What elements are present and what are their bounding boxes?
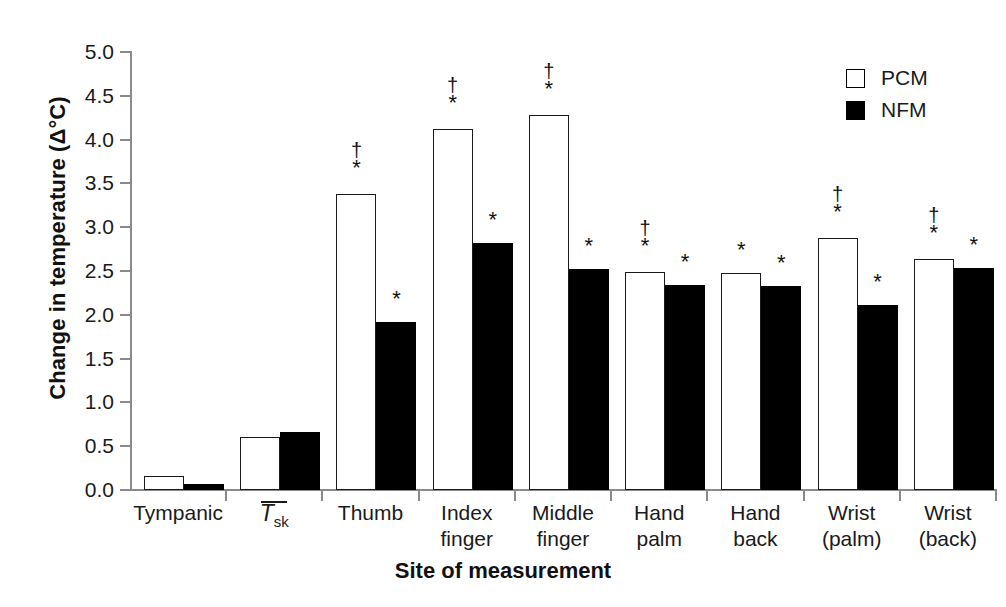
significance-markers: †*	[433, 77, 473, 123]
asterisk-marker: *	[433, 94, 473, 111]
asterisk-marker: *	[376, 290, 416, 307]
significance-markers: †*	[529, 63, 569, 109]
asterisk-marker: *	[761, 254, 801, 271]
asterisk-marker: *	[954, 236, 994, 253]
bar-pcm	[818, 238, 858, 490]
bar-pcm	[336, 194, 376, 490]
significance-markers: †*	[914, 207, 954, 253]
y-axis-tick-label: 0.0	[52, 479, 114, 500]
bar-nfm	[665, 285, 705, 490]
asterisk-marker: *	[721, 241, 761, 258]
x-axis-tick-label-line: Wrist	[873, 500, 1006, 526]
significance-markers: *	[721, 241, 761, 267]
asterisk-marker: *	[665, 253, 705, 270]
significance-markers: †*	[336, 142, 376, 188]
significance-markers: †*	[818, 186, 858, 232]
bar-pcm	[144, 476, 184, 490]
legend-item-nfm: NFM	[846, 94, 996, 126]
bar-group	[130, 52, 226, 490]
legend-item-pcm: PCM	[846, 62, 996, 94]
y-axis-tick-label: 5.0	[52, 41, 114, 62]
asterisk-marker: *	[914, 224, 954, 241]
y-axis-tick-label: 2.0	[52, 304, 114, 325]
y-axis-tick-label: 3.5	[52, 172, 114, 193]
bar-group: †**	[419, 52, 515, 490]
significance-markers: *	[473, 211, 513, 237]
bar-group: †**	[611, 52, 707, 490]
significance-markers: *	[376, 290, 416, 316]
bar-nfm	[280, 432, 320, 490]
asterisk-marker: *	[473, 211, 513, 228]
significance-markers: *	[665, 253, 705, 279]
bar-nfm	[761, 286, 801, 490]
significance-markers: †*	[625, 220, 665, 266]
asterisk-marker: *	[625, 237, 665, 254]
y-axis-tick-label: 2.5	[52, 260, 114, 281]
y-axis-tick-label: 1.5	[52, 348, 114, 369]
y-axis-tick-label: 0.5	[52, 435, 114, 456]
bar-group: **	[707, 52, 803, 490]
bar-group: †**	[515, 52, 611, 490]
bar-group: †**	[322, 52, 418, 490]
y-axis-tick-label: 1.0	[52, 391, 114, 412]
bar-pcm	[914, 259, 954, 490]
x-axis-tick-label-line: (back)	[873, 526, 1006, 552]
bar-pcm	[240, 437, 280, 490]
y-axis-tick-label: 4.5	[52, 85, 114, 106]
asterisk-marker: *	[529, 80, 569, 97]
caption-partial-strip	[28, 596, 978, 606]
bar-group	[226, 52, 322, 490]
significance-markers: *	[761, 254, 801, 280]
x-axis-tick-label: Wrist(back)	[873, 500, 1006, 552]
significance-markers: *	[858, 273, 898, 299]
bar-nfm	[954, 268, 994, 491]
legend-label-pcm: PCM	[881, 66, 928, 90]
legend-swatch-filled-square-icon	[846, 101, 865, 120]
mean-skin-temperature-symbol: Tsk	[260, 500, 289, 526]
bar-nfm	[473, 243, 513, 490]
bar-nfm	[858, 305, 898, 490]
bar-pcm	[721, 273, 761, 490]
y-axis-tick-label: 4.0	[52, 129, 114, 150]
bar-nfm	[569, 269, 609, 490]
asterisk-marker: *	[569, 237, 609, 254]
bar-nfm	[184, 484, 224, 490]
asterisk-marker: *	[818, 203, 858, 220]
x-axis-title: Site of measurement	[0, 558, 1006, 584]
asterisk-marker: *	[336, 159, 376, 176]
significance-markers: *	[954, 236, 994, 262]
bar-pcm	[529, 115, 569, 490]
bar-nfm	[376, 322, 416, 490]
legend: PCM NFM	[846, 62, 996, 126]
bar-pcm	[625, 272, 665, 490]
significance-markers: *	[569, 237, 609, 263]
legend-label-nfm: NFM	[881, 98, 927, 122]
bar-pcm	[433, 129, 473, 490]
asterisk-marker: *	[858, 273, 898, 290]
figure-bar-chart: Change in temperature (Δ°C) 0.00.51.01.5…	[0, 0, 1006, 607]
y-axis-tick-label: 3.0	[52, 216, 114, 237]
legend-swatch-open-square-icon	[846, 69, 865, 88]
